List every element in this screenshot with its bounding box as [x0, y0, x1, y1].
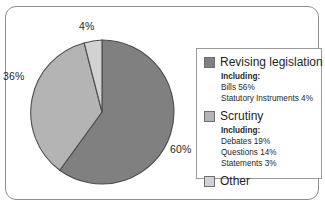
legend-swatch-revising-legislation: [204, 57, 215, 68]
legend-sub-item-bills: Bills 56%: [221, 82, 316, 93]
pie-label-revising-legislation: 60%: [170, 143, 191, 155]
legend-group-other: Other: [204, 175, 316, 189]
pie-chart-figure: 4% 36% 60% Revising legislation Includin…: [0, 0, 325, 211]
legend-group-scrutiny: Scrutiny Including: Debates 19% Question…: [204, 110, 316, 169]
pie-chart: [28, 38, 176, 186]
legend-including-heading-revising-legislation: Including:: [221, 71, 316, 82]
pie-label-scrutiny: 36%: [3, 70, 24, 82]
legend-label-other: Other: [220, 175, 250, 189]
legend-entry-revising-legislation: Revising legislation: [204, 56, 316, 70]
chart-legend: Revising legislation Including: Bills 56…: [196, 48, 322, 179]
pie-label-other: 4%: [79, 20, 94, 32]
legend-sub-item-statutory-instruments: Statutory Instruments 4%: [221, 93, 316, 104]
legend-entry-scrutiny: Scrutiny: [204, 110, 316, 124]
legend-label-scrutiny: Scrutiny: [220, 110, 263, 124]
legend-sub-item-debates: Debates 19%: [221, 136, 316, 147]
legend-group-revising-legislation: Revising legislation Including: Bills 56…: [204, 56, 316, 104]
legend-breakdown-revising-legislation: Including: Bills 56% Statutory Instrumen…: [221, 71, 316, 104]
legend-swatch-other: [204, 176, 215, 187]
legend-sub-item-questions: Questions 14%: [221, 147, 316, 158]
legend-label-revising-legislation: Revising legislation: [220, 56, 323, 70]
legend-swatch-scrutiny: [204, 111, 215, 122]
legend-including-heading-scrutiny: Including:: [221, 125, 316, 136]
legend-breakdown-scrutiny: Including: Debates 19% Questions 14% Sta…: [221, 125, 316, 169]
legend-entry-other: Other: [204, 175, 316, 189]
legend-sub-item-statements: Statements 3%: [221, 158, 316, 169]
pie-svg: [28, 38, 176, 186]
